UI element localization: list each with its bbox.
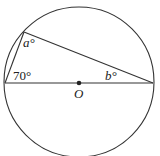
angle-70-label: 70° bbox=[13, 68, 31, 83]
angle-a-label: a° bbox=[23, 35, 35, 50]
chord-top bbox=[24, 32, 153, 83]
center-label: O bbox=[74, 86, 84, 101]
center-point bbox=[77, 81, 82, 86]
angle-b-label: b° bbox=[105, 68, 117, 83]
geometry-diagram: a° 70° b° O bbox=[0, 0, 160, 156]
